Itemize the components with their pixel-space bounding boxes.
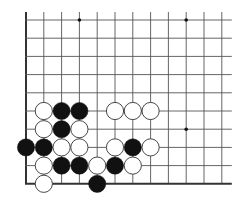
star-point-icon bbox=[184, 127, 188, 131]
black-stone bbox=[53, 102, 70, 119]
stones bbox=[17, 102, 159, 192]
white-stone bbox=[106, 139, 123, 156]
white-stone bbox=[124, 157, 141, 174]
white-stone bbox=[71, 121, 88, 138]
white-stone bbox=[142, 139, 159, 156]
star-point-icon bbox=[78, 18, 82, 22]
white-stone bbox=[106, 102, 123, 119]
white-stone bbox=[124, 102, 141, 119]
black-stone bbox=[53, 157, 70, 174]
black-stone bbox=[17, 139, 34, 156]
black-stone bbox=[106, 157, 123, 174]
white-stone bbox=[71, 139, 88, 156]
white-stone bbox=[35, 175, 52, 192]
white-stone bbox=[35, 121, 52, 138]
black-stone bbox=[35, 139, 52, 156]
black-stone bbox=[71, 102, 88, 119]
go-board[interactable] bbox=[0, 0, 246, 206]
black-stone bbox=[89, 175, 106, 192]
white-stone bbox=[142, 102, 159, 119]
white-stone bbox=[53, 139, 70, 156]
black-stone bbox=[53, 121, 70, 138]
black-stone bbox=[71, 157, 88, 174]
black-stone bbox=[124, 139, 141, 156]
white-stone bbox=[89, 157, 106, 174]
white-stone bbox=[35, 102, 52, 119]
white-stone bbox=[35, 157, 52, 174]
star-point-icon bbox=[184, 18, 188, 22]
